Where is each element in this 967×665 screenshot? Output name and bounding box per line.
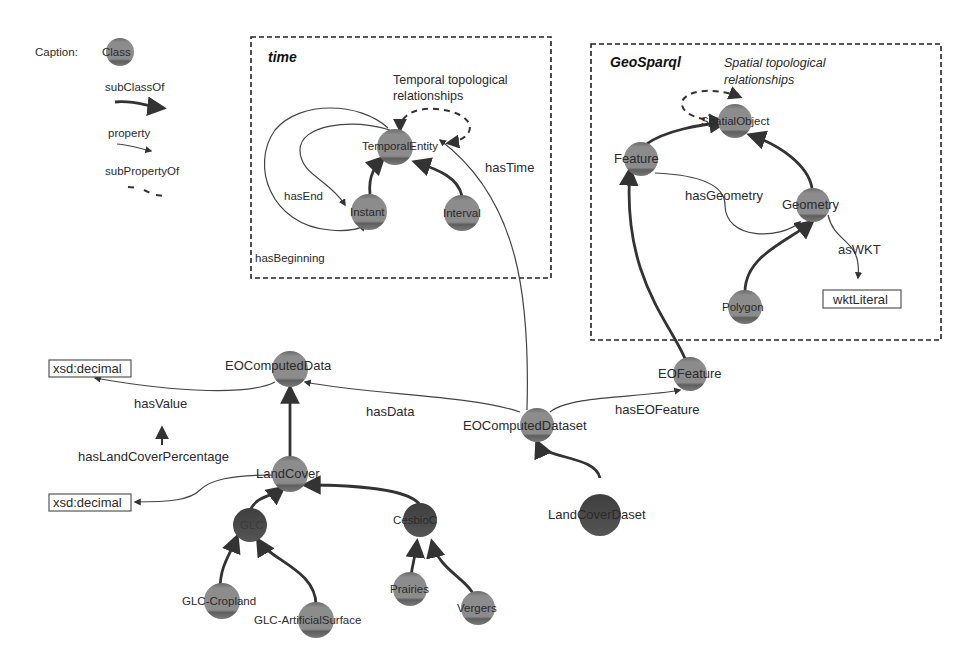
legend: Caption: Class subClassOf property subPr… [35, 38, 180, 196]
node-glc-artificial-surface[interactable]: GLC-ArtificialSurface [254, 602, 361, 638]
node-label: EOFeature [658, 366, 722, 381]
node-label: Vergers [457, 602, 497, 614]
edge-geometry-spatialobject [750, 135, 812, 188]
node-instant[interactable]: Instant [350, 194, 387, 230]
node-label: EOComputedData [225, 358, 332, 373]
node-label: LandCover [256, 466, 320, 481]
literal-label: wktLiteral [832, 292, 888, 307]
geosparql-note-line2: relationships [724, 73, 794, 87]
node-polygon[interactable]: Polygon [722, 290, 764, 324]
legend-property-arrow-icon [117, 144, 151, 151]
node-label: GLC [240, 519, 264, 531]
node-interval[interactable]: Interval [443, 195, 481, 231]
node-label: SpatialObject [701, 115, 770, 127]
node-land-cover-dataset[interactable]: LandCoverDaset [548, 494, 646, 536]
edge-hasgeometry [655, 173, 800, 234]
edge-hasvalue [95, 378, 275, 391]
edges [95, 91, 858, 608]
node-label: Prairies [390, 583, 429, 595]
node-vergers[interactable]: Vergers [457, 591, 497, 625]
node-prairies[interactable]: Prairies [390, 572, 429, 606]
label-hasdata: hasData [366, 404, 415, 419]
node-glc-cropland[interactable]: GLC-Cropland [182, 583, 256, 619]
label-haslandcoverpercentage: hasLandCoverPercentage [78, 449, 229, 464]
node-eo-computed-data[interactable]: EOComputedData [225, 351, 332, 387]
edge-landcoverdaset-eocomputeddataset [537, 442, 600, 478]
node-label: GLC-ArtificialSurface [254, 614, 361, 626]
label-hasvalue: hasValue [134, 396, 187, 411]
legend-class-label: Class [102, 46, 131, 58]
edge-glcartificial-glc [258, 540, 316, 605]
edge-haslandcoverpercentage [135, 475, 275, 502]
legend-subpropertyof-label: subPropertyOf [105, 165, 180, 177]
edge-eofeature-feature [629, 170, 690, 385]
node-glc[interactable]: GLC [233, 508, 267, 542]
legend-subclassof-label: subClassOf [105, 81, 165, 93]
node-label: EOComputedDataset [463, 418, 587, 433]
literal-label: xsd:decimal [53, 495, 122, 510]
node-label: TemporalEntity [362, 140, 438, 152]
edge-glccropland-glc [220, 537, 237, 590]
time-group-title: time [268, 49, 297, 65]
label-hastime: hasTime [485, 160, 534, 175]
node-feature[interactable]: Feature [614, 142, 659, 176]
legend-subpropertyof-arrow-icon [128, 187, 165, 196]
node-label: Polygon [722, 301, 764, 313]
node-geometry[interactable]: Geometry [782, 188, 840, 222]
edge-glc-landcover [250, 488, 283, 510]
label-hasend: hasEnd [284, 190, 323, 202]
node-cesbio[interactable]: CesbioC [393, 503, 437, 537]
edge-interval-temporalentity [415, 162, 462, 196]
node-label: LandCoverDaset [548, 507, 646, 522]
node-eo-computed-dataset[interactable]: EOComputedDataset [463, 408, 587, 442]
ontology-diagram: Caption: Class subClassOf property subPr… [0, 0, 967, 665]
edge-instant-temporalentity [370, 158, 383, 194]
literal-wkt[interactable]: wktLiteral [823, 290, 901, 308]
literal-xsd-decimal-1[interactable]: xsd:decimal [49, 360, 131, 377]
node-label: CesbioC [393, 514, 437, 526]
geosparql-group-title: GeoSparql [610, 54, 682, 70]
node-label: GLC-Cropland [182, 595, 256, 607]
label-hasgeometry: hasGeometry [685, 188, 764, 203]
node-land-cover[interactable]: LandCover [256, 456, 320, 492]
legend-title: Caption: [35, 46, 78, 58]
legend-property-label: property [108, 127, 150, 139]
time-note-line1: Temporal topological [393, 73, 508, 87]
label-aswkt: asWKT [838, 242, 881, 257]
node-label: Interval [443, 207, 481, 219]
edge-cesbio-landcover [305, 485, 420, 505]
node-label: Geometry [782, 197, 840, 212]
node-label: Feature [614, 151, 659, 166]
node-eo-feature[interactable]: EOFeature [658, 357, 722, 391]
node-temporal-entity[interactable]: TemporalEntity [362, 129, 438, 165]
literal-label: xsd:decimal [53, 361, 122, 376]
legend-subclassof-arrow-icon [115, 102, 163, 108]
literal-xsd-decimal-2[interactable]: xsd:decimal [49, 494, 131, 511]
node-label: Instant [350, 206, 385, 218]
label-hasbeginning: hasBeginning [255, 252, 325, 264]
node-spatial-object[interactable]: SpatialObject [701, 104, 770, 138]
geosparql-note-line1: Spatial topological [724, 56, 827, 70]
time-note-line2: relationships [393, 89, 463, 103]
label-haseofeature: hasEOFeature [615, 402, 700, 417]
